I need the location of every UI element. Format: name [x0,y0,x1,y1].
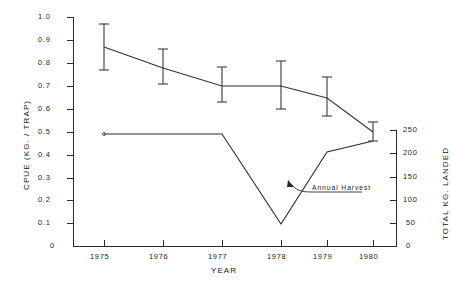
error-bar-1978 [276,61,286,109]
series-layer [0,0,452,291]
error-bar-1979 [322,77,332,116]
annual-harvest-leader-arrow [287,180,294,187]
annual-harvest-line [104,134,373,224]
figure-canvas: CPUE (KG. / TRAP) 1.0 0.9 0.8 0.7 0.6 0.… [0,0,452,291]
annual-harvest-annotation: Annual Harvest [312,184,371,191]
cpue-line [104,47,373,132]
error-bar-1975 [99,24,109,70]
error-bar-1980 [368,122,378,141]
